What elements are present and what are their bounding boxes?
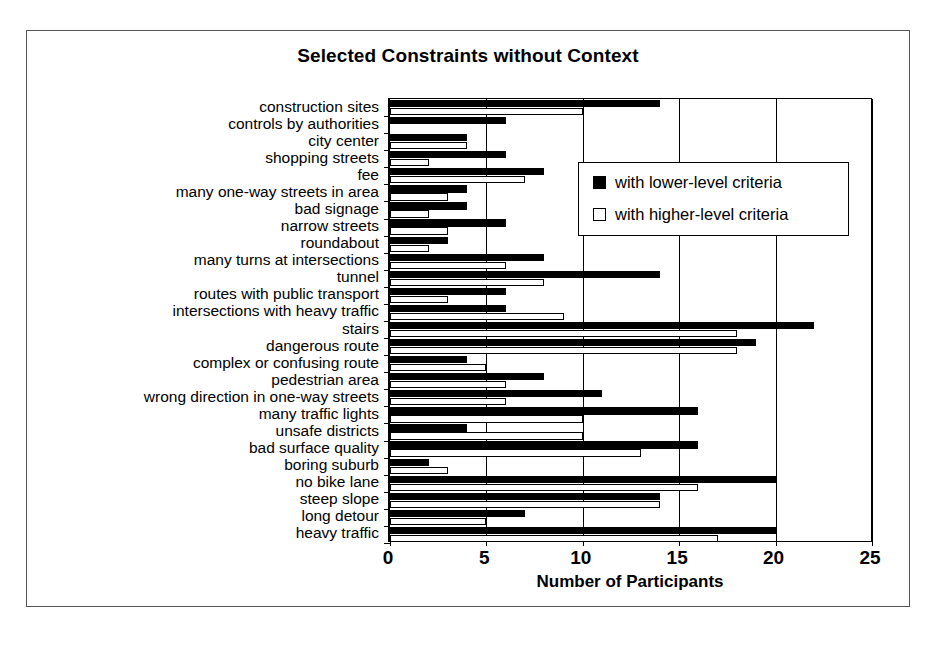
bar-row bbox=[390, 133, 871, 150]
bar-row bbox=[390, 441, 871, 458]
bar-lower-level-criteria bbox=[390, 254, 544, 261]
category-axis-labels: construction sitescontrols by authoritie… bbox=[51, 98, 385, 542]
chart-legend: with lower-level criteria with higher-le… bbox=[578, 162, 849, 236]
bar-lower-level-criteria bbox=[390, 202, 467, 209]
category-label: unsafe districts bbox=[276, 423, 379, 438]
bar-row bbox=[390, 99, 871, 116]
category-label: complex or confusing route bbox=[193, 355, 379, 370]
bar-higher-level-criteria bbox=[390, 398, 506, 405]
bar-higher-level-criteria bbox=[390, 313, 564, 320]
bar-lower-level-criteria bbox=[390, 493, 660, 500]
category-label: narrow streets bbox=[281, 218, 379, 233]
category-label: shopping streets bbox=[265, 150, 379, 165]
bar-lower-level-criteria bbox=[390, 407, 698, 414]
bar-row bbox=[390, 236, 871, 253]
category-label: pedestrian area bbox=[271, 372, 379, 387]
bar-lower-level-criteria bbox=[390, 424, 467, 431]
category-label: heavy traffic bbox=[296, 525, 379, 540]
category-label: dangerous route bbox=[266, 338, 379, 353]
bar-lower-level-criteria bbox=[390, 305, 506, 312]
legend-item-lower-level: with lower-level criteria bbox=[593, 173, 782, 192]
category-label: stairs bbox=[342, 321, 379, 336]
category-label: tunnel bbox=[337, 269, 379, 284]
bar-lower-level-criteria bbox=[390, 356, 467, 363]
bar-higher-level-criteria bbox=[390, 262, 506, 269]
plot-wrapper: construction sitescontrols by authoritie… bbox=[27, 31, 911, 608]
bar-row bbox=[390, 287, 871, 304]
bar-row bbox=[390, 423, 871, 440]
x-tick-mark bbox=[872, 541, 873, 546]
bar-row bbox=[390, 321, 871, 338]
bar-lower-level-criteria bbox=[390, 390, 602, 397]
bar-higher-level-criteria bbox=[390, 347, 737, 354]
bar-row bbox=[390, 338, 871, 355]
bar-higher-level-criteria bbox=[390, 176, 525, 183]
x-tick-label: 0 bbox=[383, 547, 394, 569]
bar-row bbox=[390, 509, 871, 526]
category-label: city center bbox=[308, 133, 379, 148]
bar-higher-level-criteria bbox=[390, 279, 544, 286]
category-label: boring suburb bbox=[284, 457, 379, 472]
category-label: bad signage bbox=[295, 201, 379, 216]
legend-swatch-open-square-icon bbox=[593, 208, 606, 221]
category-label: fee bbox=[357, 167, 379, 182]
bar-higher-level-criteria bbox=[390, 108, 583, 115]
legend-swatch-filled-square-icon bbox=[593, 176, 606, 189]
bar-higher-level-criteria bbox=[390, 484, 698, 491]
bar-lower-level-criteria bbox=[390, 168, 544, 175]
x-tick-label: 20 bbox=[763, 547, 784, 569]
bar-higher-level-criteria bbox=[390, 518, 486, 525]
bar-row bbox=[390, 355, 871, 372]
category-label: long detour bbox=[301, 508, 379, 523]
bar-row bbox=[390, 372, 871, 389]
bar-higher-level-criteria bbox=[390, 296, 448, 303]
x-tick-label: 10 bbox=[570, 547, 591, 569]
bar-higher-level-criteria bbox=[390, 501, 660, 508]
x-tick-label: 5 bbox=[479, 547, 490, 569]
bar-higher-level-criteria bbox=[390, 210, 429, 217]
bar-lower-level-criteria bbox=[390, 134, 467, 141]
category-label: intersections with heavy traffic bbox=[173, 303, 379, 318]
x-axis-tick-labels: 0510152025 bbox=[388, 547, 872, 571]
gridline bbox=[872, 99, 873, 541]
bar-lower-level-criteria bbox=[390, 219, 506, 226]
bar-row bbox=[390, 492, 871, 509]
x-axis-title: Number of Participants bbox=[388, 572, 872, 592]
bar-lower-level-criteria bbox=[390, 322, 814, 329]
bar-row bbox=[390, 475, 871, 492]
category-label: no bike lane bbox=[295, 474, 379, 489]
x-tick-label: 15 bbox=[667, 547, 688, 569]
bar-higher-level-criteria bbox=[390, 364, 486, 371]
bar-row bbox=[390, 406, 871, 423]
bar-row bbox=[390, 116, 871, 133]
bar-lower-level-criteria bbox=[390, 288, 506, 295]
figure-frame: Selected Constraints without Context con… bbox=[26, 30, 910, 607]
category-tick-mark bbox=[384, 543, 390, 544]
bar-higher-level-criteria bbox=[390, 227, 448, 234]
legend-label: with higher-level criteria bbox=[615, 205, 788, 224]
legend-item-higher-level: with higher-level criteria bbox=[593, 205, 788, 224]
bar-higher-level-criteria bbox=[390, 142, 467, 149]
bar-higher-level-criteria bbox=[390, 432, 583, 439]
category-label: routes with public transport bbox=[194, 286, 379, 301]
category-label: wrong direction in one-way streets bbox=[144, 389, 379, 404]
bar-higher-level-criteria bbox=[390, 535, 718, 542]
bar-higher-level-criteria bbox=[390, 330, 737, 337]
bar-lower-level-criteria bbox=[390, 151, 506, 158]
bar-row bbox=[390, 304, 871, 321]
bar-higher-level-criteria bbox=[390, 193, 448, 200]
bar-lower-level-criteria bbox=[390, 441, 698, 448]
category-label: many traffic lights bbox=[259, 406, 379, 421]
bar-lower-level-criteria bbox=[390, 339, 756, 346]
bar-lower-level-criteria bbox=[390, 459, 429, 466]
category-label: many one-way streets in area bbox=[176, 184, 379, 199]
category-label: bad surface quality bbox=[249, 440, 379, 455]
bar-lower-level-criteria bbox=[390, 117, 506, 124]
bar-row bbox=[390, 526, 871, 543]
bar-lower-level-criteria bbox=[390, 510, 525, 517]
bar-higher-level-criteria bbox=[390, 415, 583, 422]
category-label: many turns at intersections bbox=[194, 252, 379, 267]
legend-label: with lower-level criteria bbox=[615, 173, 782, 192]
category-label: controls by authorities bbox=[228, 116, 379, 131]
bar-higher-level-criteria bbox=[390, 159, 429, 166]
